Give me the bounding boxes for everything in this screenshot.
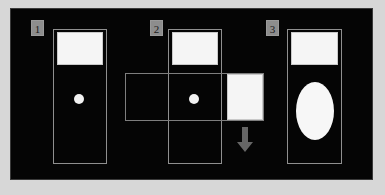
panel-3-top-block <box>291 32 338 65</box>
panel-3-ellipse-marker <box>296 82 334 140</box>
down-arrow-icon <box>236 127 254 153</box>
panel-badge-3: 3 <box>266 20 279 36</box>
panel-2-top-block <box>172 32 218 65</box>
figure-canvas: 1 2 3 <box>10 8 373 180</box>
panel-badge-1: 1 <box>31 20 44 36</box>
panel-1-top-block <box>57 32 103 65</box>
screenshot-root: 1 2 3 <box>0 0 385 195</box>
panel-2-side-block <box>227 74 263 120</box>
panel-1-circle-marker <box>74 94 84 104</box>
panel-badge-2: 2 <box>150 20 163 36</box>
